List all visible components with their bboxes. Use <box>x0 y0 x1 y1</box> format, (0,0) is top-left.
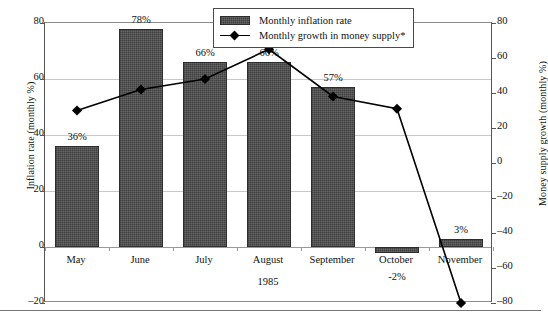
category-label: November <box>420 254 500 265</box>
left-tick-label: –20 <box>28 295 44 306</box>
right-tick-label: 80 <box>497 15 508 26</box>
line-marker <box>456 298 466 308</box>
left-tick-label: 60 <box>34 71 45 82</box>
bottom-rule <box>0 310 541 311</box>
left-tick-label: 80 <box>34 15 45 26</box>
x-axis-label: 1985 <box>228 276 308 287</box>
right-tick-label: 40 <box>497 85 508 96</box>
legend-bar-swatch-icon <box>220 16 250 25</box>
left-tick-label: 40 <box>34 127 45 138</box>
line-marker <box>392 104 402 114</box>
legend-line-swatch-icon <box>220 31 250 40</box>
right-tick-label: 20 <box>497 120 508 131</box>
right-tick-label: 0 <box>497 155 502 166</box>
left-tick-label: 20 <box>34 183 45 194</box>
legend-label-money-supply: Monthly growth in money supply* <box>259 30 405 41</box>
right-tick-mark <box>491 303 496 304</box>
right-tick-label: 60 <box>497 50 508 61</box>
legend-label-inflation: Monthly inflation rate <box>259 15 352 26</box>
legend-item-inflation: Monthly inflation rate <box>220 13 405 28</box>
right-tick-label: –80 <box>497 295 513 306</box>
right-tick-label: –40 <box>497 225 513 236</box>
legend-item-money-supply: Monthly growth in money supply* <box>220 28 405 43</box>
left-tick-mark <box>40 303 45 304</box>
chart-legend: Monthly inflation rate Monthly growth in… <box>213 8 414 48</box>
line-marker <box>136 84 146 94</box>
right-axis-title: Money supply growth (monthly %) <box>537 34 548 234</box>
line-marker <box>72 105 82 115</box>
line-marker <box>200 74 210 84</box>
x-axis-tick <box>493 247 494 251</box>
right-tick-label: –20 <box>497 190 513 201</box>
